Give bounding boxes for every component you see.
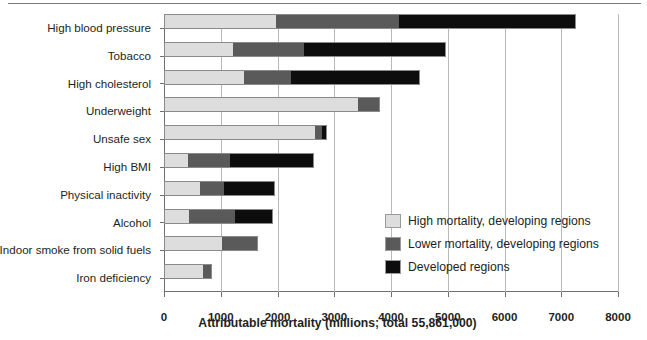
legend-label: Lower mortality, developing regions: [408, 237, 599, 251]
bar-segment[interactable]: [164, 97, 358, 112]
legend-item-high-mortality-developing: High mortality, developing regions: [385, 209, 599, 232]
bar-segment[interactable]: [189, 209, 235, 224]
bar-segment[interactable]: [164, 181, 200, 196]
x-axis-tick: [221, 292, 222, 297]
x-axis-title: Attributable mortality (millions; total …: [0, 316, 647, 330]
category-label: High BMI: [103, 160, 151, 174]
bar-segment[interactable]: [164, 264, 203, 279]
bar-segment[interactable]: [164, 70, 244, 85]
chart-legend: High mortality, developing regions Lower…: [385, 209, 599, 278]
bar-row[interactable]: [164, 125, 618, 153]
x-axis-title-text: Attributable mortality (millions; total …: [170, 316, 476, 330]
x-axis-tick: [448, 292, 449, 297]
bar-segment[interactable]: [399, 14, 576, 29]
category-label: Tobacco: [108, 49, 151, 63]
bar-row[interactable]: [164, 70, 618, 98]
category-label: High cholesterol: [68, 77, 151, 91]
category-label: Alcohol: [113, 216, 151, 230]
bar-row[interactable]: [164, 181, 618, 209]
legend-item-developed-regions: Developed regions: [385, 255, 599, 278]
bar-segment[interactable]: [233, 42, 304, 57]
x-axis-tick: [278, 292, 279, 297]
x-axis-tick: [618, 292, 619, 297]
category-label: Iron deficiency: [76, 271, 151, 285]
bar-segment[interactable]: [235, 209, 273, 224]
bar-row[interactable]: [164, 14, 618, 42]
legend-label: High mortality, developing regions: [408, 214, 591, 228]
bar-row[interactable]: [164, 97, 618, 125]
category-label: Underweight: [86, 104, 151, 118]
bar-segment[interactable]: [164, 14, 276, 29]
bar-segment[interactable]: [276, 14, 399, 29]
bar-segment[interactable]: [164, 125, 315, 140]
bar-segment[interactable]: [304, 42, 446, 57]
legend-label: Developed regions: [408, 260, 510, 274]
bar-segment[interactable]: [358, 97, 380, 112]
x-axis-tick: [391, 292, 392, 297]
category-label: High blood pressure: [47, 21, 151, 35]
category-label: Unsafe sex: [93, 132, 151, 146]
bar-segment[interactable]: [224, 181, 275, 196]
top-divider-rule: [8, 3, 641, 4]
bar-row[interactable]: [164, 42, 618, 70]
bar-segment[interactable]: [222, 236, 258, 251]
category-label: Indoor smoke from solid fuels: [0, 243, 151, 257]
legend-item-lower-mortality-developing: Lower mortality, developing regions: [385, 232, 599, 255]
bar-segment[interactable]: [164, 42, 233, 57]
bar-segment[interactable]: [164, 236, 222, 251]
bar-segment[interactable]: [230, 153, 314, 168]
legend-swatch-icon: [385, 260, 401, 274]
bar-segment[interactable]: [203, 264, 213, 279]
chart-figure: High blood pressureTobaccoHigh cholester…: [0, 0, 647, 340]
legend-swatch-icon: [385, 237, 401, 251]
bar-segment[interactable]: [244, 70, 291, 85]
bar-segment[interactable]: [291, 70, 420, 85]
x-axis-tick: [334, 292, 335, 297]
category-label: Physical inactivity: [60, 188, 151, 202]
bar-segment[interactable]: [164, 209, 189, 224]
bar-row[interactable]: [164, 153, 618, 181]
gridline: [618, 14, 619, 292]
category-axis-labels: High blood pressureTobaccoHigh cholester…: [0, 14, 158, 292]
x-axis-tick: [505, 292, 506, 297]
legend-swatch-icon: [385, 214, 401, 228]
bar-segment[interactable]: [315, 125, 322, 140]
x-axis-tick: [561, 292, 562, 297]
bar-segment[interactable]: [188, 153, 230, 168]
bar-segment[interactable]: [164, 153, 188, 168]
bar-segment[interactable]: [200, 181, 224, 196]
x-axis-tick: [164, 292, 165, 297]
bar-segment[interactable]: [322, 125, 327, 140]
